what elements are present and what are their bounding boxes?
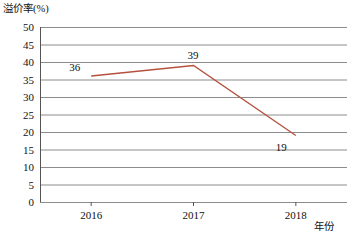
- y-tick-label: 10: [8, 162, 34, 173]
- x-tick-label: 2018: [271, 210, 321, 221]
- y-tick-label: 5: [8, 180, 34, 191]
- x-tick-label: 2016: [66, 210, 116, 221]
- y-tick-label: 25: [8, 110, 34, 121]
- y-tick-label: 45: [8, 40, 34, 51]
- y-tick-label: 15: [8, 145, 34, 156]
- plot-area: [0, 0, 353, 238]
- y-tick-label: 0: [8, 197, 34, 208]
- chart-container: 溢价率(%) 年份 50454035302520151050 201620172…: [0, 0, 353, 238]
- data-point-label: 19: [276, 142, 287, 153]
- x-tick-label: 2017: [169, 210, 219, 221]
- y-tick-label: 30: [8, 92, 34, 103]
- data-point-label: 36: [69, 62, 80, 73]
- y-tick-label: 40: [8, 57, 34, 68]
- data-point-label: 39: [188, 50, 199, 61]
- y-tick-label: 35: [8, 75, 34, 86]
- data-line-group: [91, 66, 296, 136]
- y-tick-label: 20: [8, 127, 34, 138]
- data-series-line: [91, 66, 296, 136]
- y-tick-label: 50: [8, 22, 34, 33]
